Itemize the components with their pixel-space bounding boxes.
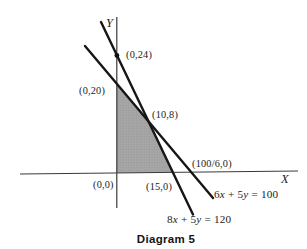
point-label-0-0: (0,0) [93, 179, 114, 191]
point-label-0-24: (0,24) [126, 49, 152, 61]
y-axis-label: Y [106, 16, 115, 30]
eq1-equals: = [248, 188, 261, 200]
lp-diagram-canvas: Y X (0,24) (0,20) (10,8) (100/6,0) (0,0)… [0, 0, 307, 249]
eq2-rhs: 120 [214, 213, 232, 225]
point-label-0-20: (0,20) [79, 85, 105, 97]
eq2-equals: = [201, 213, 214, 225]
lp-diagram-figure: Y X (0,24) (0,20) (10,8) (100/6,0) (0,0)… [0, 0, 307, 249]
equation-label-8x-5y-120: 8x + 5y = 120 [167, 213, 232, 225]
point-label-15-0: (15,0) [146, 181, 172, 193]
eq2-plus: + [178, 213, 191, 225]
eq1-plus: + [225, 188, 238, 200]
point-marker-0-24 [115, 53, 120, 58]
x-axis-label: X [280, 172, 290, 186]
point-label-10-8: (10,8) [152, 109, 178, 121]
figure-caption: Diagram 5 [137, 233, 196, 245]
eq1-rhs: 100 [261, 188, 279, 200]
equation-label-6x-5y-100: 6x + 5y = 100 [214, 188, 279, 200]
point-label-100-6-0: (100/6,0) [192, 158, 232, 170]
feasible-region-texture [117, 84, 173, 173]
